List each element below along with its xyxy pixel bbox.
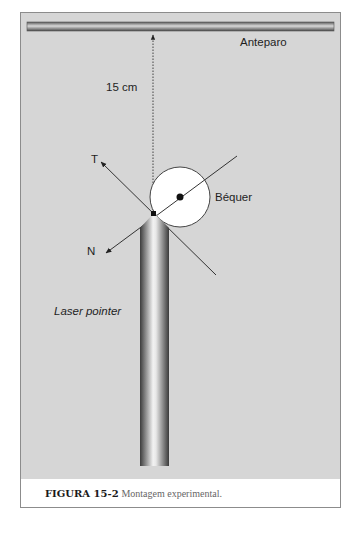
tangent-label: T: [91, 153, 98, 165]
figure-caption: FIGURA 15-2 Montagem experimental.: [45, 488, 222, 499]
diagram-drawing: [0, 0, 358, 535]
laser-label: Laser pointer: [54, 305, 121, 317]
beaker-center-dot: [177, 194, 184, 201]
laser-tip-dot: [151, 211, 156, 216]
screen-bar: [27, 22, 334, 31]
normal-label: N: [87, 245, 95, 257]
beaker-label: Béquer: [215, 191, 252, 203]
distance-label: 15 cm: [106, 81, 137, 93]
figure-caption-text: Montagem experimental.: [121, 488, 222, 499]
laser-pointer: [140, 213, 169, 466]
figure-number: FIGURA 15-2: [45, 488, 119, 499]
screen-label: Anteparo: [240, 36, 287, 48]
